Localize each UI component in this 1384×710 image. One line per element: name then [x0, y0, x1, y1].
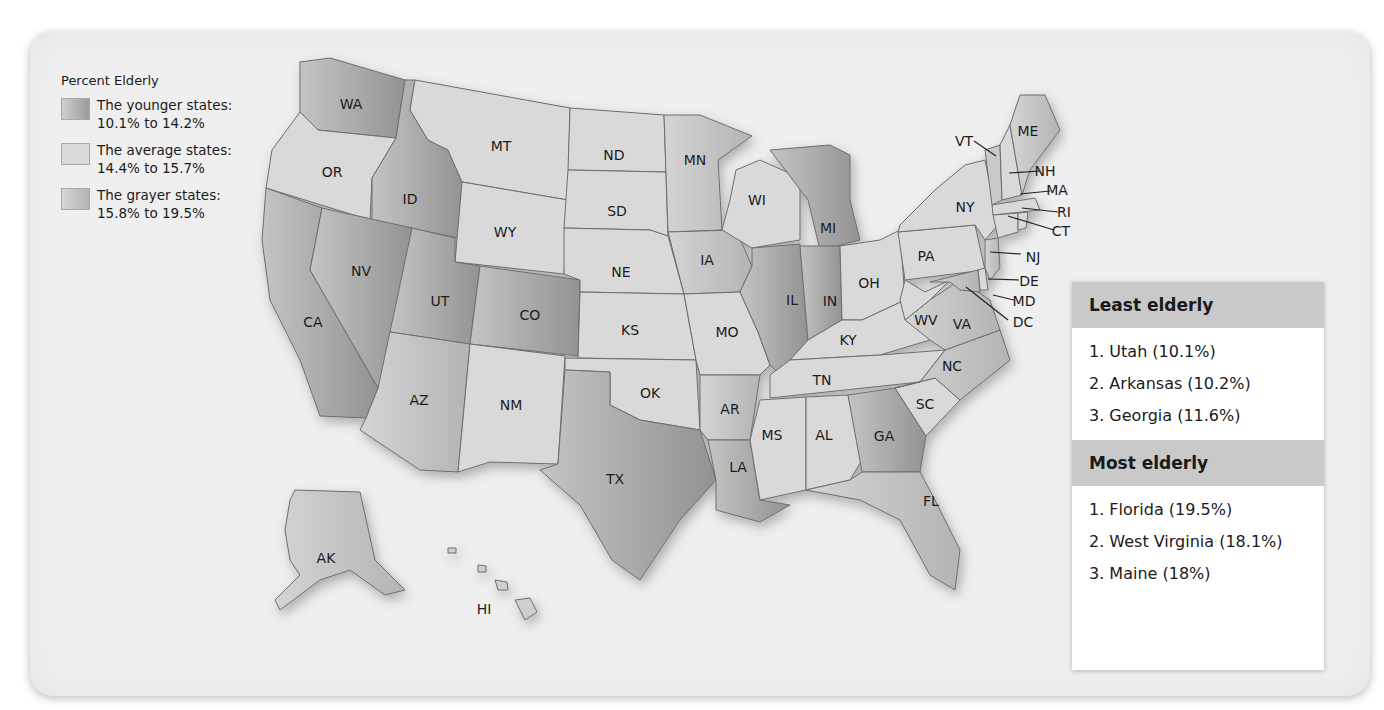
most-elderly-item: 1. Florida (19.5%) — [1089, 494, 1324, 526]
svg-text:CA: CA — [303, 314, 323, 330]
svg-text:NM: NM — [500, 397, 523, 413]
svg-text:KY: KY — [839, 332, 857, 348]
least-elderly-item: 1. Utah (10.1%) — [1089, 336, 1324, 368]
svg-text:CT: CT — [1052, 223, 1071, 239]
svg-text:ID: ID — [403, 191, 418, 207]
svg-text:TX: TX — [605, 471, 625, 487]
svg-text:IN: IN — [823, 293, 838, 309]
svg-text:NE: NE — [611, 264, 630, 280]
svg-text:MI: MI — [820, 220, 836, 236]
state-FL[interactable] — [806, 472, 960, 590]
least-elderly-item: 3. Georgia (11.6%) — [1089, 400, 1324, 432]
svg-text:VA: VA — [953, 316, 972, 332]
svg-text:SD: SD — [607, 203, 627, 219]
state-HI[interactable] — [448, 548, 537, 620]
svg-text:OH: OH — [858, 275, 880, 291]
svg-text:NJ: NJ — [1026, 249, 1041, 265]
svg-text:IL: IL — [786, 292, 798, 308]
svg-text:PA: PA — [917, 248, 935, 264]
most-elderly-item: 2. West Virginia (18.1%) — [1089, 526, 1324, 558]
svg-text:GA: GA — [874, 428, 895, 444]
svg-text:WI: WI — [748, 192, 766, 208]
svg-text:AL: AL — [815, 427, 833, 443]
state-MS[interactable] — [750, 397, 806, 500]
state-CT[interactable] — [993, 213, 1018, 238]
least-elderly-header: Least elderly — [1072, 282, 1324, 328]
state-AK[interactable] — [275, 490, 405, 610]
svg-text:TN: TN — [811, 372, 831, 388]
svg-text:NY: NY — [955, 199, 974, 215]
svg-text:MA: MA — [1046, 182, 1068, 198]
most-elderly-item: 3. Maine (18%) — [1089, 558, 1324, 590]
svg-text:VT: VT — [955, 133, 974, 149]
svg-text:DC: DC — [1013, 314, 1034, 330]
svg-text:KS: KS — [621, 322, 639, 338]
svg-text:MT: MT — [491, 138, 512, 154]
svg-text:SC: SC — [916, 396, 935, 412]
svg-text:AR: AR — [720, 401, 740, 417]
svg-text:ND: ND — [603, 147, 624, 163]
svg-text:LA: LA — [729, 459, 747, 475]
state-NJ[interactable] — [985, 238, 1000, 280]
svg-text:CO: CO — [520, 307, 541, 323]
svg-text:AK: AK — [317, 550, 337, 566]
svg-text:DE: DE — [1019, 273, 1039, 289]
svg-text:NV: NV — [351, 263, 371, 279]
svg-text:HI: HI — [477, 601, 492, 617]
svg-text:MD: MD — [1013, 293, 1036, 309]
svg-text:RI: RI — [1057, 204, 1071, 220]
lower-48-states — [262, 58, 1060, 620]
svg-text:WV: WV — [914, 312, 938, 328]
rankings-box: Least elderly 1. Utah (10.1%) 2. Arkansa… — [1072, 282, 1324, 670]
svg-text:NC: NC — [942, 358, 962, 374]
svg-text:FL: FL — [923, 493, 939, 509]
least-elderly-list: 1. Utah (10.1%) 2. Arkansas (10.2%) 3. G… — [1072, 328, 1324, 440]
svg-text:UT: UT — [431, 293, 450, 309]
least-elderly-item: 2. Arkansas (10.2%) — [1089, 368, 1324, 400]
svg-text:MS: MS — [762, 427, 783, 443]
most-elderly-list: 1. Florida (19.5%) 2. West Virginia (18.… — [1072, 486, 1324, 598]
svg-text:IA: IA — [700, 252, 714, 268]
svg-text:ME: ME — [1018, 123, 1039, 139]
svg-text:AZ: AZ — [409, 392, 428, 408]
svg-text:WY: WY — [494, 224, 517, 240]
state-NE[interactable] — [564, 228, 684, 294]
svg-text:WA: WA — [340, 96, 363, 112]
svg-text:MN: MN — [684, 152, 707, 168]
svg-text:OR: OR — [322, 164, 343, 180]
most-elderly-header: Most elderly — [1072, 440, 1324, 486]
svg-text:MO: MO — [715, 324, 738, 340]
svg-text:OK: OK — [640, 385, 661, 401]
